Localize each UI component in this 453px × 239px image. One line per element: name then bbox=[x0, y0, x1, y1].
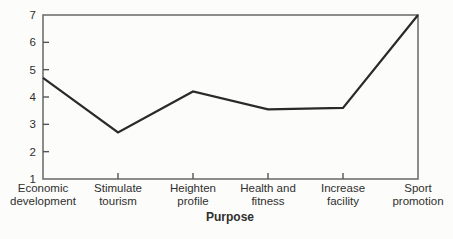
plot-frame bbox=[43, 15, 418, 179]
x-category-label: Health andfitness bbox=[240, 182, 296, 207]
x-category-label: Increasefacility bbox=[321, 182, 365, 207]
y-tick-label: 4 bbox=[30, 91, 37, 103]
y-tick-label: 2 bbox=[30, 146, 36, 158]
y-tick-label: 5 bbox=[30, 64, 36, 76]
y-tick-label: 6 bbox=[30, 36, 36, 48]
data-line bbox=[43, 15, 418, 133]
x-category-label: Heightenprofile bbox=[170, 182, 216, 207]
line-chart: 1234567EconomicdevelopmentStimulatetouri… bbox=[0, 0, 453, 239]
y-tick-label: 3 bbox=[30, 118, 36, 130]
x-category-label: Economicdevelopment bbox=[10, 182, 77, 207]
x-axis-title: Purpose bbox=[206, 210, 254, 224]
line-chart-figure: 1234567EconomicdevelopmentStimulatetouri… bbox=[0, 0, 453, 239]
x-category-label: Sportpromotion bbox=[392, 182, 443, 207]
x-category-label: Stimulatetourism bbox=[94, 182, 142, 207]
y-tick-label: 7 bbox=[30, 9, 36, 21]
